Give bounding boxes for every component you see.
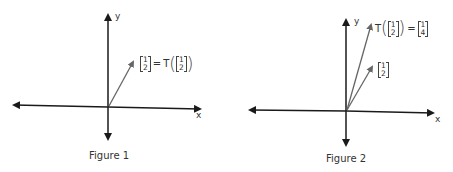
equals-sign: = xyxy=(407,24,415,34)
figure-2-vector-label: 1 2 xyxy=(378,62,389,78)
figure-1-x-label: x xyxy=(196,110,201,120)
figure-2-vector xyxy=(347,67,372,110)
figure-2-x-label: x xyxy=(435,114,440,124)
left-matrix: 1 2 xyxy=(140,56,151,72)
vector-matrix: 1 2 xyxy=(378,62,389,78)
matrix-entry: 2 xyxy=(381,70,386,78)
figure-1-vector-label: 1 2 = T ( 1 2 ) xyxy=(140,54,193,73)
arg-matrix: 1 2 xyxy=(176,56,187,72)
figure-1-y-label: y xyxy=(115,11,120,21)
arg-matrix: 1 2 xyxy=(388,21,399,37)
figure-1-caption: Figure 1 xyxy=(89,150,129,161)
matrix-entry: 2 xyxy=(179,64,184,72)
equals-sign: = xyxy=(153,59,161,69)
matrix-entry: 2 xyxy=(391,29,396,37)
matrix-entry: 2 xyxy=(143,64,148,72)
figure-1-vector xyxy=(109,62,133,106)
figure-2-axes xyxy=(250,20,433,145)
result-matrix: 1 4 xyxy=(418,21,429,37)
figure-1-axes xyxy=(14,15,200,139)
figure-2-caption: Figure 2 xyxy=(326,153,366,164)
figure-2-image-label: T ( 1 2 ) = 1 4 xyxy=(375,20,428,37)
figure-2-y-label: y xyxy=(354,16,359,26)
figure-2-image-vector xyxy=(347,25,371,110)
matrix-entry: 4 xyxy=(421,29,426,37)
